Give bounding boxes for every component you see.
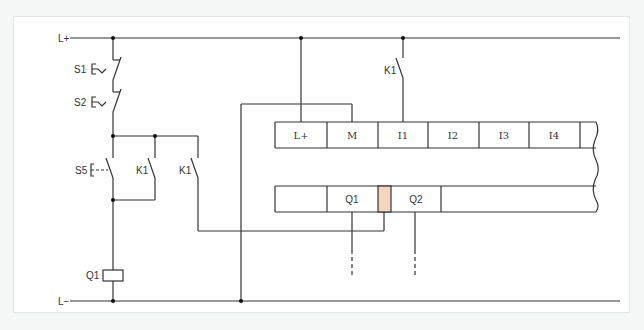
switch-label-s1: S1 <box>74 64 87 75</box>
plc-terminal-q1: Q1 <box>345 194 359 205</box>
plc-terminal-i3: I3 <box>499 130 509 141</box>
plc-terminal-i2: I2 <box>448 130 458 141</box>
plc-terminal-i1: I1 <box>398 130 408 141</box>
rail-label-positive: L+ <box>58 33 70 44</box>
output-common-terminal <box>378 186 391 212</box>
contact-label-k1-input: K1 <box>384 65 397 76</box>
rail-label-negative: L− <box>58 296 70 307</box>
contact-label-k1-hold: K1 <box>136 165 149 176</box>
coil-label-q1: Q1 <box>86 270 100 281</box>
switch-label-s2: S2 <box>74 97 87 108</box>
plc-terminal-m: M <box>347 130 357 141</box>
circuit-diagram: L+ L− S1 S2 S5 K1 K1 K1 Q1 L+ M I1 I2 I3… <box>0 0 644 330</box>
plc-terminal-lplus: L+ <box>293 130 308 141</box>
contact-label-k1-plc: K1 <box>179 165 192 176</box>
switch-label-s5: S5 <box>75 165 88 176</box>
plc-terminal-q2: Q2 <box>409 194 423 205</box>
plc-terminal-i4: I4 <box>549 130 559 141</box>
